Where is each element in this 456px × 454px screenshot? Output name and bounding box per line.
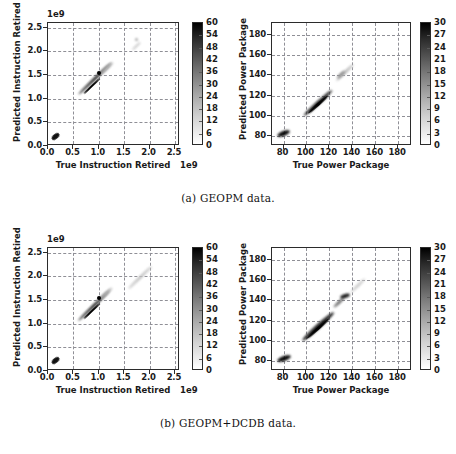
x-tick-label: 1.5 [116, 147, 130, 157]
y-tick-mark [267, 279, 271, 280]
subfigure-b: 1e9 Predicted Instruction Retired True I… [0, 225, 456, 450]
y-tick-mark [43, 121, 47, 122]
colorbar-tick-label: 0 [206, 365, 212, 375]
x-tick-label: 100 [297, 147, 314, 157]
x-tick-label: 180 [389, 147, 406, 157]
gridline-horizontal [48, 324, 178, 325]
colorbar-tick-label: 54 [206, 254, 218, 264]
subfigure-caption-b: (b) GEOPM+DCDB data. [0, 417, 456, 429]
y-tick-label: 100 [246, 335, 266, 345]
y-tick-mark [43, 323, 47, 324]
colorbar-tick-label: 24 [434, 42, 446, 52]
density-cluster [99, 61, 113, 75]
x-axis-title: True Instruction Retired [56, 385, 171, 395]
colorbar-tick-label: 21 [434, 279, 446, 289]
gridline-vertical [99, 23, 100, 144]
gridline-horizontal [272, 35, 410, 36]
gridline-horizontal [272, 55, 410, 56]
y-axis-title: Predicted Instruction Retired [12, 227, 22, 367]
density-cluster [277, 129, 291, 138]
gridline-vertical [175, 23, 176, 144]
y-tick-label: 1.0 [22, 93, 42, 103]
y-axis-title: Predicted Instruction Retired [12, 2, 22, 142]
gridline-vertical [99, 248, 100, 369]
colorbar-tick-label: 54 [206, 29, 218, 39]
density-cluster [50, 356, 60, 366]
colorbar-tick-label: 36 [206, 66, 218, 76]
density-cluster [307, 95, 328, 115]
y-tick-mark [43, 299, 47, 300]
colorbar-tick-label: 12 [206, 115, 218, 125]
colorbar-tick-label: 30 [434, 17, 446, 27]
density-cluster [97, 71, 101, 75]
y-tick-label: 2.5 [22, 22, 42, 32]
x-tick-label: 120 [320, 147, 337, 157]
colorbar-tick-label: 24 [206, 91, 218, 101]
x-tick-label: 180 [389, 372, 406, 382]
colorbar-tick-label: 36 [206, 291, 218, 301]
colorbar [192, 247, 203, 370]
gridline-vertical [175, 248, 176, 369]
x-axis-title: True Power Package [293, 385, 390, 395]
x-tick-label: 0.5 [65, 372, 79, 382]
gridline-horizontal [48, 347, 178, 348]
colorbar-tick-label: 42 [206, 54, 218, 64]
gridline-horizontal [272, 96, 410, 97]
y-tick-label: 0.0 [22, 140, 42, 150]
x-tick-label: 160 [366, 147, 383, 157]
x-tick-label: 80 [277, 147, 288, 157]
gridline-vertical [306, 248, 307, 369]
x-tick-label: 140 [343, 147, 360, 157]
y-tick-label: 120 [246, 315, 266, 325]
gridline-horizontal [48, 75, 178, 76]
colorbar-tick-label: 6 [434, 115, 440, 125]
gridline-vertical [124, 248, 125, 369]
gridline-horizontal [48, 300, 178, 301]
y-tick-label: 80 [246, 130, 266, 140]
subfigure-a: 1e9 Predicted Instruction Retired True I… [0, 0, 456, 225]
gridline-horizontal [48, 253, 178, 254]
y-tick-label: 80 [246, 355, 266, 365]
density-cluster [97, 296, 101, 300]
gridline-vertical [124, 23, 125, 144]
plot-area [271, 22, 411, 145]
colorbar-tick-label: 6 [206, 128, 212, 138]
y-tick-label: 0.5 [22, 116, 42, 126]
colorbar-tick-label: 18 [206, 328, 218, 338]
gridline-vertical [150, 23, 151, 144]
y-tick-mark [43, 50, 47, 51]
y-exponent-label: 1e9 [47, 9, 65, 19]
x-axis-title: True Power Package [293, 160, 390, 170]
colorbar-tick-label: 6 [434, 340, 440, 350]
gridline-horizontal [48, 28, 178, 29]
x-tick-label: 2.5 [167, 372, 181, 382]
y-tick-label: 160 [246, 49, 266, 59]
x-tick-label: 1.0 [91, 372, 105, 382]
y-exponent-label: 1e9 [47, 234, 65, 244]
panel-power-package-geopm: Predicted Power Package True Power Packa… [228, 0, 456, 188]
colorbar-tick-label: 24 [206, 316, 218, 326]
gridline-vertical [284, 248, 285, 369]
gridline-vertical [375, 23, 376, 144]
y-tick-label: 1.0 [22, 318, 42, 328]
colorbar-tick-label: 21 [434, 54, 446, 64]
colorbar-tick-label: 9 [434, 103, 440, 113]
density-cluster [99, 287, 112, 300]
panel-row-b: 1e9 Predicted Instruction Retired True I… [0, 225, 456, 413]
colorbar-tick-label: 30 [206, 79, 218, 89]
y-tick-mark [43, 370, 47, 371]
y-tick-mark [267, 320, 271, 321]
plot-area [271, 247, 411, 370]
y-tick-label: 140 [246, 69, 266, 79]
colorbar-tick-label: 0 [206, 140, 212, 150]
y-tick-label: 180 [246, 29, 266, 39]
colorbar-tick-label: 60 [206, 242, 218, 252]
colorbar-tick-label: 15 [434, 79, 446, 89]
x-axis-title: True Instruction Retired [56, 160, 171, 170]
y-tick-mark [267, 135, 271, 136]
x-exponent-label: 1e9 [180, 385, 198, 395]
y-tick-mark [267, 360, 271, 361]
y-tick-mark [267, 95, 271, 96]
y-tick-label: 1.5 [22, 69, 42, 79]
gridline-horizontal [48, 51, 178, 52]
